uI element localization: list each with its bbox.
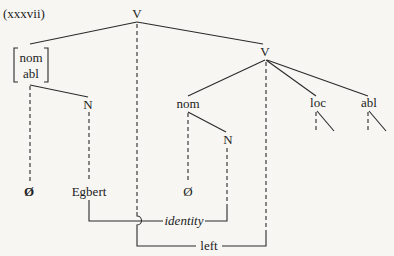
diagram-canvas: (xxxvii) V nom abl N Ø Egbert identity l… (0, 0, 394, 256)
node-loc: loc (310, 95, 326, 110)
bracket-nom-label: nom (19, 50, 42, 65)
edge-nom-n (188, 112, 226, 132)
example-number: (xxxvii) (3, 6, 45, 21)
edge-topv-rightv (137, 22, 263, 44)
relation-identity: identity (165, 213, 204, 228)
bracket-left (14, 48, 18, 82)
terminal-right-null: Ø (183, 184, 192, 199)
node-abl: abl (361, 95, 377, 110)
node-right-v: V (260, 44, 270, 59)
edge-rightv-loc (266, 60, 316, 96)
bracket-right (44, 48, 48, 82)
edge-rightv-nom (188, 60, 265, 96)
bracket-abl-label: abl (23, 66, 39, 81)
node-right-n: N (223, 132, 233, 147)
dependency-tree-diagram: (xxxvii) V nom abl N Ø Egbert identity l… (0, 0, 394, 256)
terminal-left-null: Ø (24, 184, 34, 199)
bracket-nom-abl: nom abl (14, 48, 48, 82)
edge-bracket-n (30, 85, 88, 97)
edge-topv-bracket (30, 22, 137, 44)
node-left-n: N (83, 97, 93, 112)
identity-rightn-link (205, 205, 227, 221)
relation-left: left (200, 238, 218, 253)
node-right-nom: nom (176, 96, 199, 111)
edge-loc-diagonal (317, 111, 334, 131)
egbert-identity-link (89, 200, 163, 221)
left-rightv-link (222, 232, 266, 246)
node-top-v: V (132, 6, 142, 21)
edge-rightv-abl (267, 60, 368, 96)
edge-abl-diagonal (369, 111, 386, 131)
terminal-egbert: Egbert (72, 184, 107, 199)
